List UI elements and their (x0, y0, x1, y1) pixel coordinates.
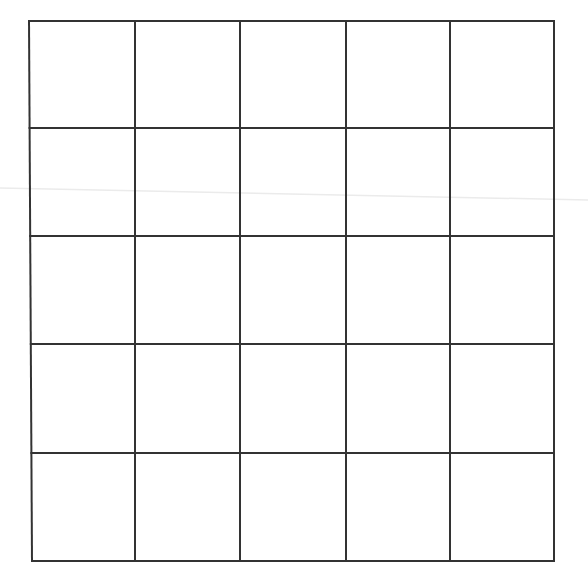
grid-cell-r1-c5 (450, 21, 554, 128)
grid-cell-r2-c1 (29, 128, 135, 236)
grid-diagram (0, 0, 588, 581)
grid-cell-r1-c3 (240, 21, 346, 128)
grid-cell-r2-c4 (346, 128, 450, 236)
grid-cell-r3-c2 (135, 236, 240, 344)
grid-cell-r1-c4 (346, 21, 450, 128)
grid-cell-r2-c3 (240, 128, 346, 236)
grid-cell-r2-c5 (450, 128, 554, 236)
grid-cell-r4-c1 (29, 344, 135, 453)
grid-cells (29, 21, 554, 561)
grid-cell-r5-c4 (346, 453, 450, 561)
grid-cell-r3-c5 (450, 236, 554, 344)
grid-cell-r4-c4 (346, 344, 450, 453)
grid-cell-r1-c2 (135, 21, 240, 128)
grid-cell-r3-c1 (29, 236, 135, 344)
grid-cell-r5-c5 (450, 453, 554, 561)
grid-cell-r3-c4 (346, 236, 450, 344)
grid-cell-r3-c3 (240, 236, 346, 344)
grid-cell-r4-c5 (450, 344, 554, 453)
five-by-five-grid (0, 0, 588, 581)
grid-cell-r5-c2 (135, 453, 240, 561)
grid-cell-r4-c3 (240, 344, 346, 453)
grid-cell-r1-c1 (29, 21, 135, 128)
grid-cell-r5-c1 (29, 453, 135, 561)
grid-cell-r2-c2 (135, 128, 240, 236)
grid-cell-r5-c3 (240, 453, 346, 561)
grid-cell-r4-c2 (135, 344, 240, 453)
